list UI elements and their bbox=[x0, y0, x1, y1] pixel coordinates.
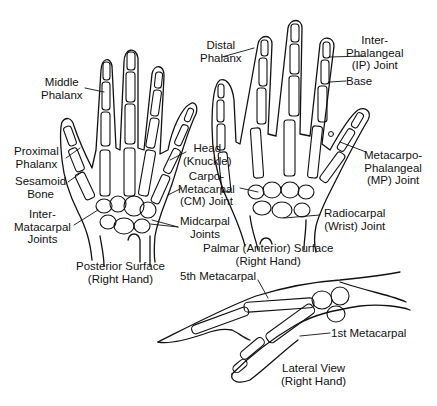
caption-posterior-surface: Posterior Surface (Right Hand) bbox=[76, 260, 165, 285]
label-distal-phalanx: Distal Phalanx bbox=[200, 39, 242, 64]
label-intermetacarpal-joints: Inter- Matacarpal Joints bbox=[14, 208, 71, 246]
label-proximal-phalanx: Proximal Phalanx bbox=[14, 145, 59, 170]
label-head-knuckle: Head (Knuckle) bbox=[183, 142, 232, 167]
caption-lateral-view: Lateral View (Right Hand) bbox=[281, 362, 346, 387]
label-middle-phalanx: Middle Phalanx bbox=[41, 76, 83, 101]
label-first-metacarpal: 1st Metacarpal bbox=[331, 327, 406, 340]
label-mp-joint: Metacarpo- Phalangeal (MP) Joint bbox=[364, 149, 422, 187]
label-ip-joint: Inter- Phalangeal (IP) Joint bbox=[346, 34, 404, 72]
label-midcarpal-joints: Midcarpal Joints bbox=[180, 215, 230, 240]
label-cm-joint: Carpo- Metacarpal (CM) Joint bbox=[178, 170, 235, 208]
label-radiocarpal-joint: Radiocarpal (Wrist) Joint bbox=[324, 207, 385, 232]
label-sesamoid-bone: Sesamoid Bone bbox=[15, 175, 66, 200]
label-base: Base bbox=[346, 75, 372, 88]
hand-anatomy-diagram: Middle Phalanx Proximal Phalanx Sesamoid… bbox=[0, 0, 437, 406]
label-fifth-metacarpal: 5th Metacarpal bbox=[180, 270, 256, 283]
caption-palmar-surface: Palmar (Anterior) Surface (Right Hand) bbox=[203, 242, 333, 267]
